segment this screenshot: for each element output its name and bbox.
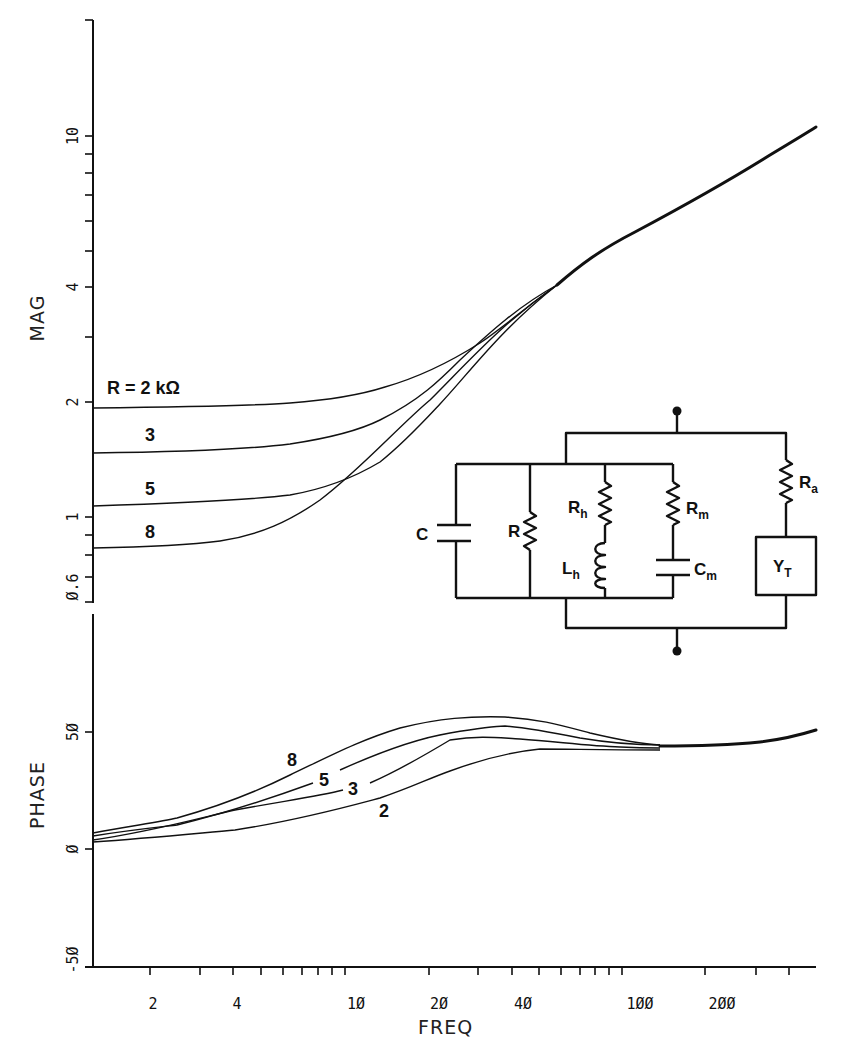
freq-tick-20: 2Ø xyxy=(430,995,448,1013)
capacitor-c-icon xyxy=(437,464,471,598)
mag-axis-label: MAG xyxy=(26,295,48,342)
mag-tick-2: 2 xyxy=(64,397,82,406)
label-rm: Rm xyxy=(686,499,709,522)
mag-curve-merged xyxy=(557,127,816,285)
mag-series-label-r8: 8 xyxy=(145,522,155,542)
mag-tick-10: 10 xyxy=(64,127,82,145)
figure: 10 4 2 1 Ø.6 MAG R = 2 kΩ 3 5 8 xyxy=(0,0,843,1061)
circuit-diagram: C R Rh Lh Rm C xyxy=(416,407,818,656)
phase-series-label-r5: 5 xyxy=(319,770,329,790)
freq-ticks xyxy=(150,967,789,975)
phase-series-label-r2: 2 xyxy=(379,801,389,821)
phase-plot: 5Ø Ø -5Ø PHASE xyxy=(26,614,816,1038)
phase-tick-50: 5Ø xyxy=(64,723,82,741)
label-ra: Ra xyxy=(799,473,818,496)
phase-curve-r8 xyxy=(93,717,660,833)
label-lh: Lh xyxy=(562,559,580,582)
phase-curve-merged xyxy=(660,730,816,746)
mag-curve-r8 xyxy=(93,285,557,548)
freq-tick-4: 4 xyxy=(232,995,241,1013)
label-c: C xyxy=(416,525,428,544)
phase-series-label-r3: 3 xyxy=(348,779,358,799)
phase-axis-label: PHASE xyxy=(26,761,48,829)
mag-tick-4: 4 xyxy=(64,282,82,291)
label-yt: YT xyxy=(773,557,792,580)
mag-series-label-r5: 5 xyxy=(145,479,155,499)
freq-tick-200: 2ØØ xyxy=(708,995,735,1013)
resistor-r-icon xyxy=(524,464,536,598)
resistor-ra-icon xyxy=(780,460,792,537)
mag-tick-0-6: Ø.6 xyxy=(64,573,82,600)
phase-tick-0: Ø xyxy=(64,844,82,853)
phase-curve-r5 xyxy=(93,726,660,836)
mag-tick-1: 1 xyxy=(64,512,82,521)
inductor-lh-icon xyxy=(595,543,605,598)
capacitor-cm-icon xyxy=(656,560,690,598)
mag-curve-r3 xyxy=(93,285,557,453)
freq-axis-label: FREQ xyxy=(418,1016,473,1038)
phase-curve-r2 xyxy=(93,749,660,842)
label-rh: Rh xyxy=(568,498,588,521)
freq-tick-10: 1Ø xyxy=(347,995,365,1013)
resistor-rh-icon xyxy=(599,464,611,543)
mag-series-label-r3: 3 xyxy=(145,425,155,445)
freq-tick-40: 4Ø xyxy=(514,995,532,1013)
phase-series-label-r8: 8 xyxy=(287,750,297,770)
label-cm: Cm xyxy=(694,560,717,583)
freq-tick-2: 2 xyxy=(148,995,157,1013)
freq-tick-100: 1ØØ xyxy=(626,995,653,1013)
mag-series-label-r2: R = 2 kΩ xyxy=(107,378,180,398)
phase-tick-minus50: -5Ø xyxy=(64,946,82,973)
label-r: R xyxy=(508,522,520,541)
resistor-rm-icon xyxy=(667,464,679,560)
